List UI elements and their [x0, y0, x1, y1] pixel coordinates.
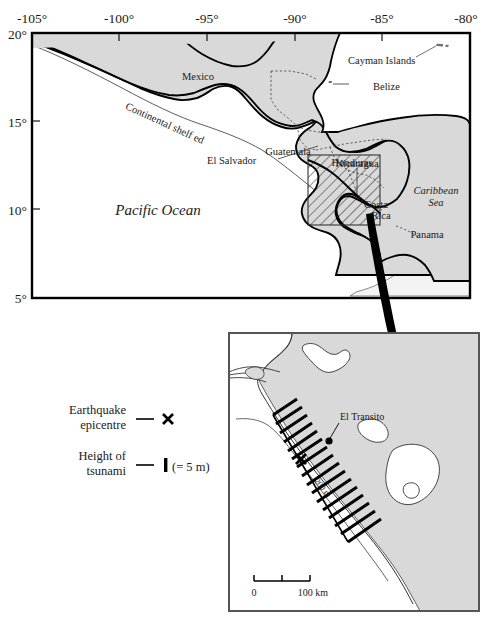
x-tick-label-1: -100°: [104, 11, 134, 26]
el-transito-point: [325, 437, 332, 444]
label-caribbean: Caribbean: [414, 185, 459, 196]
x-tick-label-2: -95°: [195, 11, 218, 26]
inset-map: El Transito 200 m 0 100 km: [229, 333, 479, 611]
label-guatemala: Guatemala: [265, 146, 311, 157]
main-map: -105° -100° -95° -90° -85° -80° 20° 15° …: [0, 0, 478, 306]
y-tick-label-3: 5°: [15, 291, 27, 306]
x-tick-label-4: -85°: [370, 11, 393, 26]
label-cayman-islands: Cayman Islands: [348, 55, 415, 66]
label-sea: Sea: [428, 197, 443, 208]
y-tick-label-2: 10°: [8, 203, 27, 218]
legend-item-0-label-line1: Earthquake: [69, 403, 126, 417]
label-el-transito: El Transito: [340, 411, 384, 422]
legend-item-0-label-line2: epicentre: [80, 418, 126, 432]
label-nicaragua: Nicaragua: [335, 158, 378, 169]
label-pacific-ocean: Pacific Ocean: [114, 202, 200, 218]
label-costa: Costa: [364, 199, 388, 210]
x-tick-label-3: -90°: [283, 11, 306, 26]
label-rica: Rica: [371, 210, 391, 221]
x-tick-label-0: -105°: [17, 11, 47, 26]
label-el-salvador: El Salvador: [207, 155, 257, 166]
x-tick-label-5: -80°: [454, 11, 477, 26]
tsunami-map-figure: -105° -100° -95° -90° -85° -80° 20° 15° …: [0, 0, 486, 619]
inset-small-lake: [403, 483, 419, 499]
label-mexico: Mexico: [182, 71, 214, 82]
belize-cay: [329, 81, 333, 83]
bar-marker-icon: [164, 458, 167, 472]
scale-bar-end-label: 100 km: [298, 587, 329, 598]
scale-bar-start-label: 0: [252, 587, 257, 598]
label-belize: Belize: [373, 81, 400, 92]
label-panama: Panama: [410, 229, 444, 240]
legend-item-1-suffix: (= 5 m): [172, 460, 210, 474]
y-tick-label-0: 20°: [8, 27, 27, 42]
y-tick-label-1: 15°: [8, 115, 27, 130]
legend-item-1-label-line2: tsunami: [86, 464, 126, 478]
legend-item-1-label-line1: Height of: [78, 449, 126, 463]
